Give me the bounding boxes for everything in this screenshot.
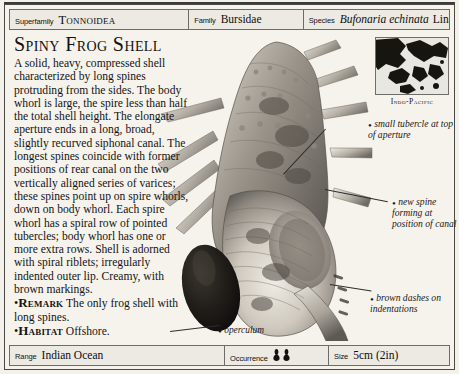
superfamily-label: Superfamily xyxy=(15,17,54,26)
callout-new-spine: • new spine forming at position of canal xyxy=(392,196,458,229)
callout-tubercle: • small tubercle at top of aperture xyxy=(368,118,456,140)
size-cell: Size 5cm (2in) xyxy=(328,346,449,365)
species-binomial: Bufonaria echinata xyxy=(340,13,429,25)
shell-icon xyxy=(283,349,290,361)
habitat-line: •Habitat Offshore. xyxy=(14,324,190,338)
description-paragraph: A solid, heavy, compressed shell charact… xyxy=(14,57,190,296)
range-label: Range xyxy=(15,352,37,361)
page-title: Spiny Frog Shell xyxy=(14,33,162,56)
range-cell: Range Indian Ocean xyxy=(10,346,224,365)
callout-new-spine-text: new spine forming at position of canal xyxy=(392,196,457,229)
shell-photograph xyxy=(158,36,373,341)
occurrence-cell: Occurrence xyxy=(224,346,328,365)
family-value: Bursidae xyxy=(221,13,262,25)
occurrence-label: Occurrence xyxy=(230,354,268,363)
superfamily-cell: Superfamily Tonnoidea xyxy=(10,10,188,29)
shell-icon xyxy=(273,349,280,361)
callout-operculum: • operculum xyxy=(218,325,288,336)
remark-line: •Remark The only frog shell with long sp… xyxy=(14,296,190,324)
species-label: Species xyxy=(309,16,335,25)
occurrence-rating xyxy=(273,349,290,362)
habitat-keyword: Habitat xyxy=(18,323,63,338)
description-text: A solid, heavy, compressed shell charact… xyxy=(14,57,190,338)
callout-tubercle-text: small tubercle at top of aperture xyxy=(368,118,453,140)
family-label: Family xyxy=(194,16,215,25)
species-author: Link xyxy=(433,13,449,25)
remark-keyword: Remark xyxy=(18,295,63,310)
range-value: Indian Ocean xyxy=(42,349,104,361)
callout-operculum-text: operculum xyxy=(224,325,264,335)
taxonomy-header: Superfamily Tonnoidea Family Bursidae Sp… xyxy=(9,9,450,30)
attributes-footer: Range Indian Ocean Occurrence Size 5cm (… xyxy=(9,345,450,366)
size-value: 5cm (2in) xyxy=(353,349,398,361)
callout-dot-icon: • xyxy=(218,325,222,337)
size-label: Size xyxy=(334,352,348,361)
map-caption: Indo-Pacific xyxy=(375,97,449,106)
species-cell: Species Bufonaria echinata Link xyxy=(303,10,449,29)
distribution-map-image xyxy=(375,37,449,95)
shell-encyclopedia-page: Superfamily Tonnoidea Family Bursidae Sp… xyxy=(0,0,459,374)
callout-brown-dashes-text: brown dashes on indentations xyxy=(370,292,441,314)
callout-brown-dashes: • brown dashes on indentations xyxy=(370,292,458,314)
family-cell: Family Bursidae xyxy=(188,10,302,29)
superfamily-value: Tonnoidea xyxy=(59,13,116,28)
habitat-text: Offshore. xyxy=(66,325,110,338)
